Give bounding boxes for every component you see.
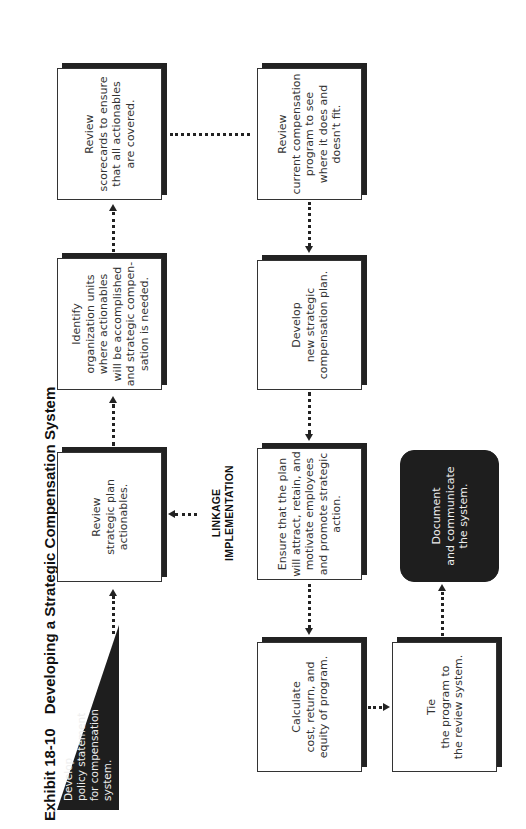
arrow-down-icon	[305, 246, 313, 253]
exhibit-number: Exhibit 18-10	[41, 728, 58, 821]
connector-linkage-to-review-plan	[175, 513, 197, 519]
connector-develop-to-ensure	[308, 392, 314, 434]
node-identify-org-units: Identify organization units where action…	[57, 258, 162, 390]
node-calculate: Calculate cost, return, and equity of pr…	[257, 642, 362, 772]
node-review-current-compensation: Review current compensation program to s…	[257, 68, 362, 200]
arrow-up-icon	[438, 584, 446, 591]
arrow-left-icon	[168, 510, 175, 518]
connector-policy-to-review-plan	[112, 596, 118, 634]
node-develop-new-plan: Develop new strategic compensation plan.	[257, 260, 362, 390]
policy-triangle-text: Develop policy statement for compensatio…	[62, 681, 114, 801]
node-tie-program: Tie the program to the review system.	[392, 642, 497, 772]
arrow-down-icon	[305, 628, 313, 635]
connector-review-plan-to-identify	[112, 404, 118, 446]
connector-identify-to-scorecards	[112, 212, 118, 252]
node-review-strategic-plan: Review strategic plan actionables.	[57, 452, 162, 582]
connector-tie-to-document	[441, 592, 447, 636]
connector-calculate-to-tie	[368, 706, 382, 712]
arrow-down-icon	[305, 434, 313, 441]
connector-review-current-to-develop	[308, 202, 314, 246]
connector-ensure-to-calculate	[308, 584, 314, 628]
arrow-up-icon	[109, 396, 117, 403]
linkage-implementation-label: LINKAGE IMPLEMENTATION	[210, 458, 240, 568]
node-ensure-plan: Ensure that the plan will attract, retai…	[257, 448, 362, 580]
exhibit-title-text: Developing a Strategic Compensation Syst…	[41, 387, 58, 715]
node-document-communicate: Document and communicate the system.	[400, 450, 499, 582]
arrow-right-icon	[383, 703, 390, 711]
connector-scorecards-to-review-current	[170, 133, 250, 139]
arrow-up-icon	[109, 204, 117, 211]
node-review-scorecards: Review scorecards to ensure that all act…	[57, 68, 162, 200]
arrow-up-icon	[109, 589, 117, 596]
